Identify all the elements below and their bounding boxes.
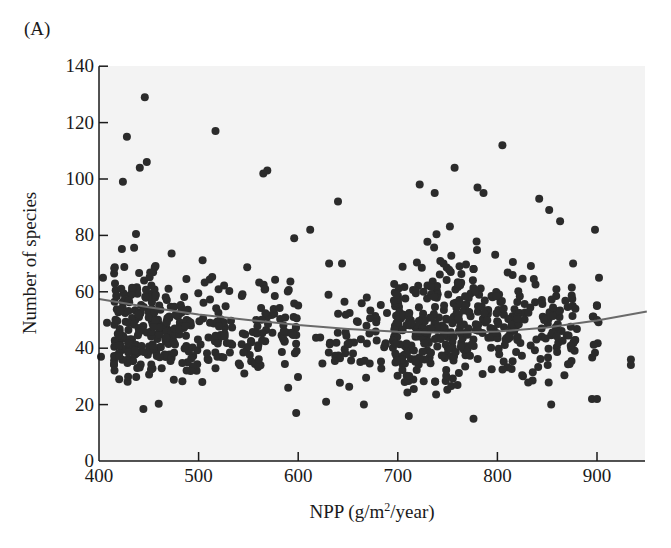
data-point bbox=[461, 292, 469, 300]
data-point bbox=[531, 298, 539, 306]
data-point bbox=[347, 357, 355, 365]
data-point bbox=[117, 285, 125, 293]
data-point bbox=[571, 305, 579, 313]
data-point bbox=[493, 309, 501, 317]
x-axis-label: NPP (g/m2/year) bbox=[309, 500, 434, 523]
data-point bbox=[182, 275, 190, 283]
data-point bbox=[493, 292, 501, 300]
data-point bbox=[393, 290, 401, 298]
data-point bbox=[203, 349, 211, 357]
data-point bbox=[431, 303, 439, 311]
data-point bbox=[134, 310, 142, 318]
data-point bbox=[312, 334, 320, 342]
data-point bbox=[509, 258, 517, 266]
data-point bbox=[529, 368, 537, 376]
data-point bbox=[336, 379, 344, 387]
data-point bbox=[524, 379, 532, 387]
data-point bbox=[362, 374, 370, 382]
data-point bbox=[128, 284, 136, 292]
data-point bbox=[155, 400, 163, 408]
data-point bbox=[527, 342, 535, 350]
data-point bbox=[344, 340, 352, 348]
data-point bbox=[334, 198, 342, 206]
data-point bbox=[165, 313, 173, 321]
data-point bbox=[276, 304, 284, 312]
data-point bbox=[412, 289, 420, 297]
data-point bbox=[455, 315, 463, 323]
data-point bbox=[162, 334, 170, 342]
data-point bbox=[115, 331, 123, 339]
data-point bbox=[430, 244, 438, 252]
data-point bbox=[433, 342, 441, 350]
data-point bbox=[214, 339, 222, 347]
data-point bbox=[123, 133, 131, 141]
data-point bbox=[469, 276, 477, 284]
data-point bbox=[178, 377, 186, 385]
data-point bbox=[226, 348, 234, 356]
data-point bbox=[491, 251, 499, 259]
data-point bbox=[115, 352, 123, 360]
data-point bbox=[474, 184, 482, 192]
data-point bbox=[483, 316, 491, 324]
data-point bbox=[199, 256, 207, 264]
data-point bbox=[331, 357, 339, 365]
x-tick-label: 500 bbox=[184, 466, 213, 485]
data-point bbox=[135, 269, 143, 277]
data-point bbox=[360, 401, 368, 409]
y-tick-label: 60 bbox=[75, 282, 94, 301]
data-point bbox=[183, 366, 191, 374]
data-point bbox=[181, 345, 189, 353]
data-point bbox=[547, 401, 555, 409]
data-point bbox=[349, 349, 357, 357]
data-point bbox=[436, 270, 444, 278]
data-point bbox=[535, 195, 543, 203]
data-point bbox=[568, 283, 576, 291]
data-point bbox=[446, 223, 454, 231]
data-point bbox=[293, 347, 301, 355]
data-point bbox=[549, 304, 557, 312]
data-point bbox=[377, 365, 385, 373]
y-tick-label: 80 bbox=[75, 225, 94, 244]
data-point bbox=[111, 280, 119, 288]
x-tick-label: 700 bbox=[384, 466, 413, 485]
data-point bbox=[215, 322, 223, 330]
data-point bbox=[549, 312, 557, 320]
data-point bbox=[240, 370, 248, 378]
data-point bbox=[292, 409, 300, 417]
data-point bbox=[593, 302, 601, 310]
data-point bbox=[564, 360, 572, 368]
data-point bbox=[377, 358, 385, 366]
x-axis-label-post: /year) bbox=[390, 501, 434, 522]
data-point bbox=[545, 379, 553, 387]
data-point bbox=[495, 350, 503, 358]
y-tick-label: 20 bbox=[75, 395, 94, 414]
x-tick-label: 900 bbox=[583, 466, 612, 485]
data-point bbox=[147, 282, 155, 290]
data-point bbox=[481, 297, 489, 305]
data-point bbox=[462, 261, 470, 269]
data-point bbox=[415, 317, 423, 325]
data-point bbox=[136, 164, 144, 172]
data-point bbox=[111, 367, 119, 375]
data-point bbox=[358, 299, 366, 307]
data-point bbox=[129, 357, 137, 365]
data-point bbox=[243, 263, 251, 271]
data-point bbox=[131, 346, 139, 354]
data-point bbox=[591, 349, 599, 357]
data-point bbox=[219, 354, 227, 362]
data-point bbox=[182, 322, 190, 330]
data-point bbox=[451, 164, 459, 172]
data-point bbox=[255, 355, 263, 363]
data-point bbox=[239, 330, 247, 338]
data-point bbox=[341, 349, 349, 357]
data-point bbox=[145, 370, 153, 378]
data-point bbox=[405, 309, 413, 317]
data-point bbox=[540, 316, 548, 324]
data-point bbox=[544, 361, 552, 369]
data-point bbox=[326, 340, 334, 348]
data-point bbox=[431, 378, 439, 386]
data-point bbox=[205, 356, 213, 364]
data-point bbox=[548, 296, 556, 304]
data-point bbox=[247, 338, 255, 346]
data-point bbox=[286, 278, 294, 286]
